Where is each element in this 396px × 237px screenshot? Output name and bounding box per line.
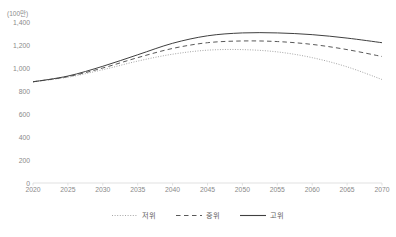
- x-axis-tick-label: 2020: [18, 186, 48, 193]
- x-axis-tick-label: 2035: [123, 186, 153, 193]
- x-axis-tick-labels: 2020202520302035204020452050205520602065…: [0, 186, 396, 200]
- plot-area: [0, 0, 396, 237]
- x-axis-tick-label: 2030: [88, 186, 118, 193]
- x-axis-tick-label: 2025: [53, 186, 83, 193]
- legend-swatch-solid-icon: [240, 212, 266, 219]
- legend-label-high: 고위: [270, 210, 284, 220]
- legend-label-mid: 중위: [206, 210, 220, 220]
- x-axis-tick-label: 2050: [227, 186, 257, 193]
- chart-legend: 저위 중위 고위: [0, 210, 396, 220]
- x-axis-tick-label: 2070: [367, 186, 396, 193]
- x-axis-tick-label: 2060: [297, 186, 327, 193]
- x-axis-tick-label: 2055: [262, 186, 292, 193]
- legend-label-low: 저위: [142, 210, 156, 220]
- legend-item-low[interactable]: 저위: [112, 210, 156, 220]
- legend-item-high[interactable]: 고위: [240, 210, 284, 220]
- legend-swatch-dotted-icon: [112, 212, 138, 219]
- x-axis-tick-label: 2045: [193, 186, 223, 193]
- series-line-high: [33, 33, 382, 82]
- legend-swatch-dashed-icon: [176, 212, 202, 219]
- x-axis-tick-label: 2065: [332, 186, 362, 193]
- series-line-low: [33, 49, 382, 81]
- x-axis-tick-label: 2040: [158, 186, 188, 193]
- legend-item-mid[interactable]: 중위: [176, 210, 220, 220]
- chart-container: (100만) 02004006008001,0001,2001,400 2020…: [0, 0, 396, 237]
